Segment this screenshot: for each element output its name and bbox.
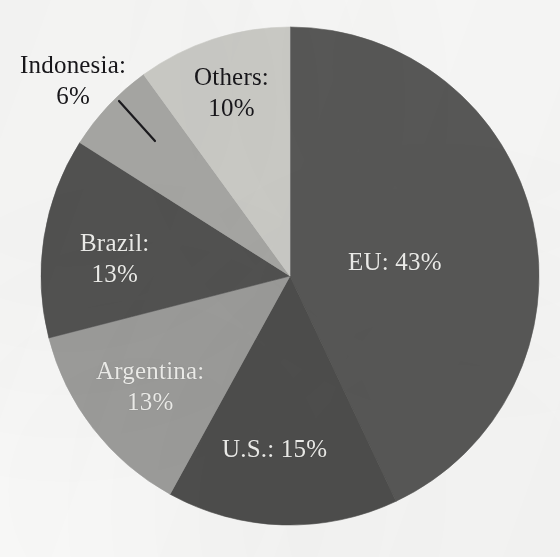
slice-label-argentina-value: 13% bbox=[96, 387, 204, 418]
slice-label-us-name: U.S.: bbox=[222, 435, 274, 462]
slice-label-indonesia-name: Indonesia: bbox=[20, 50, 126, 81]
slice-label-eu-value: 43% bbox=[389, 248, 442, 275]
slice-label-argentina-name: Argentina: bbox=[96, 356, 204, 387]
slice-label-eu: EU:43% bbox=[348, 247, 442, 278]
slice-label-indonesia: Indonesia: 6% bbox=[20, 50, 126, 111]
slice-label-brazil-value: 13% bbox=[80, 259, 149, 290]
slice-label-brazil: Brazil: 13% bbox=[80, 228, 149, 289]
slice-label-us-value: 15% bbox=[274, 435, 327, 462]
slice-label-brazil-name: Brazil: bbox=[80, 228, 149, 259]
slice-label-us: U.S.:15% bbox=[222, 434, 327, 465]
slice-label-eu-name: EU: bbox=[348, 248, 389, 275]
pie-chart: EU:43% U.S.:15% Argentina: 13% Brazil: 1… bbox=[0, 0, 560, 557]
slice-label-indonesia-value: 6% bbox=[20, 81, 126, 112]
slice-label-argentina: Argentina: 13% bbox=[96, 356, 204, 417]
slice-label-others-name: Others: bbox=[194, 62, 269, 93]
pie-chart-page: EU:43% U.S.:15% Argentina: 13% Brazil: 1… bbox=[0, 0, 560, 557]
slice-label-others-value: 10% bbox=[194, 93, 269, 124]
slice-label-others: Others: 10% bbox=[194, 62, 269, 123]
